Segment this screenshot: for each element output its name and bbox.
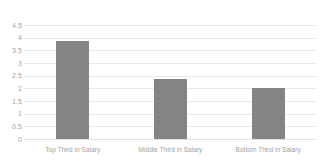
y-axis-tick-label: 3.5 xyxy=(0,47,22,54)
y-axis-tick-label: 1 xyxy=(0,110,22,117)
chart-title xyxy=(0,0,325,2)
x-axis-category-label: Top Third in Salary xyxy=(24,145,122,154)
gridline xyxy=(24,139,317,140)
bar xyxy=(154,79,187,139)
bar xyxy=(252,88,285,139)
y-axis-tick-label: 0.5 xyxy=(0,123,22,130)
y-axis: 4.543.532.521.510.50 xyxy=(0,0,22,164)
y-axis-tick-label: 4.5 xyxy=(0,22,22,29)
y-axis-tick-label: 2.5 xyxy=(0,72,22,79)
bar-series xyxy=(24,25,317,139)
y-axis-tick-label: 4 xyxy=(0,34,22,41)
y-axis-tick-label: 3 xyxy=(0,60,22,67)
x-axis-category-label: Middle Third in Salary xyxy=(122,145,220,154)
y-axis-tick-label: 2 xyxy=(0,85,22,92)
y-axis-tick-label: 0 xyxy=(0,136,22,143)
y-axis-tick-label: 1.5 xyxy=(0,98,22,105)
x-axis-category-label: Bottom Third in Salary xyxy=(219,145,317,154)
plot-area xyxy=(24,25,317,139)
bar-chart: 4.543.532.521.510.50 Top Third in Salary… xyxy=(0,0,325,164)
x-axis: Top Third in SalaryMiddle Third in Salar… xyxy=(24,145,317,157)
bar xyxy=(56,41,89,139)
